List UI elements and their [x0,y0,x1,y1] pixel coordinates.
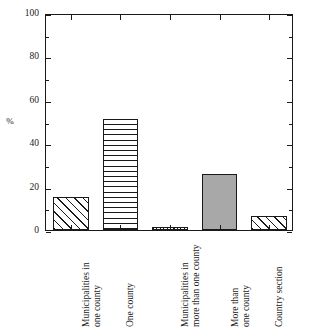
y-axis-tick-major [287,232,292,233]
y-axis-tick-major [287,58,292,59]
y-axis-tick-major [46,189,51,190]
y-axis-tick-minor [289,80,292,81]
y-axis-tick-minor [289,124,292,125]
y-axis-tick-major [46,232,51,233]
y-tick-label-40: 40 [5,139,39,149]
y-axis-tick-major [46,145,51,146]
y-axis-tick-minor [46,37,49,38]
x-axis-tick-top [71,15,72,20]
y-axis-tick-minor [46,210,49,211]
x-category-label-0-line2: one county [92,285,103,327]
x-category-label-4-line1: Country section [274,267,285,327]
x-axis-tick-top [220,15,221,20]
y-axis-title: % [3,116,17,126]
y-axis-tick-major [287,189,292,190]
x-axis-tick [220,225,221,230]
x-category-label-2-line2: more than one county [191,244,202,327]
x-axis-tick-top [269,15,270,20]
bar-1 [103,119,139,230]
x-axis-tick [71,225,72,230]
x-category-label-3-line2: one county [241,285,252,327]
x-axis-tick [120,225,121,230]
y-axis-tick-major [287,15,292,16]
y-axis-tick-minor [46,124,49,125]
bar-3 [202,174,238,230]
bar-chart: % 0 20 40 60 80 100 Municipalities in on… [0,0,311,332]
y-tick-label-100: 100 [5,9,39,19]
x-category-label-3-line1: More than [230,288,241,327]
x-axis-tick-top [170,15,171,20]
y-axis-tick-minor [46,167,49,168]
y-tick-label-80: 80 [5,52,39,62]
x-category-label-1-line1: One county [125,283,136,327]
x-axis-tick [170,225,171,230]
y-axis-tick-minor [46,80,49,81]
y-tick-label-20: 20 [5,183,39,193]
y-axis-tick-major [46,58,51,59]
y-axis-tick-minor [289,37,292,38]
y-axis-tick-minor [289,210,292,211]
y-tick-label-60: 60 [5,96,39,106]
y-axis-tick-major [46,102,51,103]
x-category-label-2-line1: Municipalities in [180,262,191,327]
x-category-label-0-line1: Municipalities in [81,262,92,327]
y-axis-tick-major [287,145,292,146]
x-axis-tick [269,225,270,230]
y-axis-tick-major [46,15,51,16]
plot-area [45,14,293,231]
y-axis-tick-minor [289,167,292,168]
x-axis-tick-top [120,15,121,20]
y-tick-label-0: 0 [5,226,39,236]
y-axis-tick-major [287,102,292,103]
